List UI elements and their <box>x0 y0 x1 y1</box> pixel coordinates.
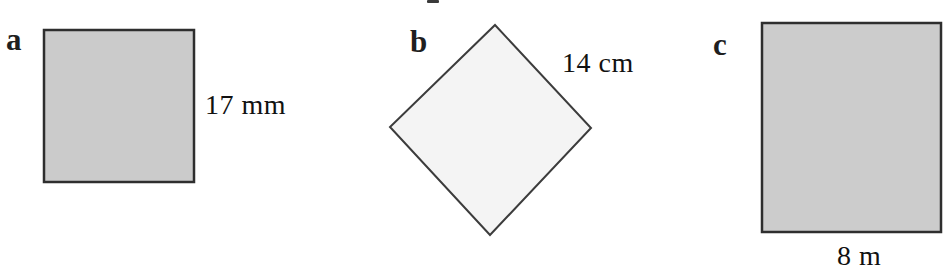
figure-a-measurement: 17 mm <box>205 91 286 119</box>
figure-c-label: c <box>713 29 727 60</box>
figure-a-label: a <box>6 24 22 55</box>
cropped-text-fragment <box>427 0 439 3</box>
figure-b-measurement: 14 cm <box>562 49 634 77</box>
square-b <box>390 25 591 235</box>
square-a <box>44 30 194 182</box>
square-c-shape <box>760 21 943 234</box>
square-a-shape <box>42 28 196 184</box>
square-c <box>762 23 941 232</box>
geometry-figure-page: a 17 mm b 14 cm c 8 m <box>0 0 944 269</box>
figure-c-measurement: 8 m <box>837 242 881 269</box>
